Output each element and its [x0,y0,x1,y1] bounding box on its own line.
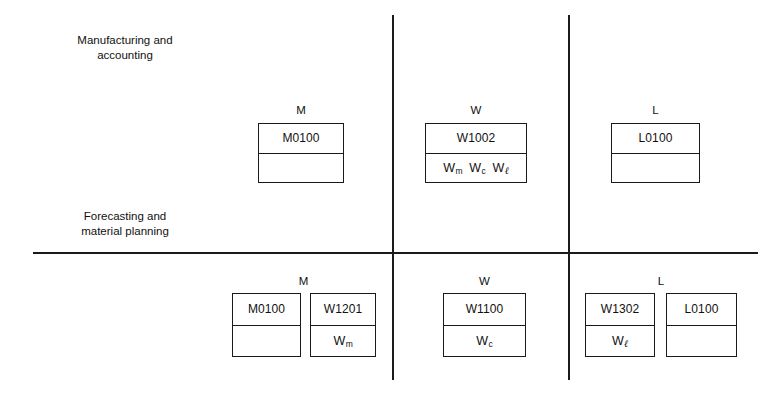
record-box-bottom-m-m0100[interactable]: M0100 [232,293,301,357]
record-box-top-m-m0100[interactable]: M0100 [258,123,344,183]
record-detail-cell: Wc [444,326,525,357]
column-header-bottom-w: W [443,275,526,288]
w-symbol: Wc [469,162,485,175]
record-box-top-l-l0100[interactable]: L0100 [611,123,700,183]
record-id-cell: W1201 [311,294,375,326]
column-header-bottom-m: M [232,275,375,288]
record-id-cell: W1002 [426,124,526,154]
record-id-cell: W1100 [444,294,525,326]
record-box-top-w-w1002[interactable]: W1002 WmWcWℓ [425,123,527,183]
record-detail-cell [667,326,736,357]
record-layout-diagram: Manufacturing and accounting Forecasting… [0,0,782,393]
w-symbol: Wm [443,162,462,175]
record-detail-cell: Wℓ [586,326,654,357]
vertical-divider-right [568,15,570,380]
record-id-cell: M0100 [259,124,343,154]
column-header-bottom-l: L [585,275,737,288]
column-header-top-m: M [258,104,344,117]
record-detail-cell [259,154,343,183]
record-detail-cell [233,326,300,357]
section-caption-forecasting: Forecasting and material planning [58,209,192,239]
w-symbol: Wℓ [493,162,509,175]
section-caption-manufacturing: Manufacturing and accounting [58,33,192,63]
record-detail-cell: WmWcWℓ [426,154,526,183]
record-id-cell: M0100 [233,294,300,326]
record-id-cell: L0100 [612,124,699,154]
record-id-cell: W1302 [586,294,654,326]
column-header-top-l: L [611,104,700,117]
record-box-bottom-l-w1302[interactable]: W1302 Wℓ [585,293,655,357]
record-detail-cell [612,154,699,183]
w-symbol: Wm [333,335,352,348]
record-detail-cell: Wm [311,326,375,357]
column-header-top-w: W [425,104,527,117]
record-box-bottom-w-w1100[interactable]: W1100 Wc [443,293,526,357]
record-box-bottom-m-w1201[interactable]: W1201 Wm [310,293,376,357]
vertical-divider-left [392,15,394,380]
horizontal-divider [33,252,758,254]
record-id-cell: L0100 [667,294,736,326]
w-symbol: Wc [476,335,492,348]
record-box-bottom-l-l0100[interactable]: L0100 [666,293,737,357]
w-symbol: Wℓ [612,335,628,348]
